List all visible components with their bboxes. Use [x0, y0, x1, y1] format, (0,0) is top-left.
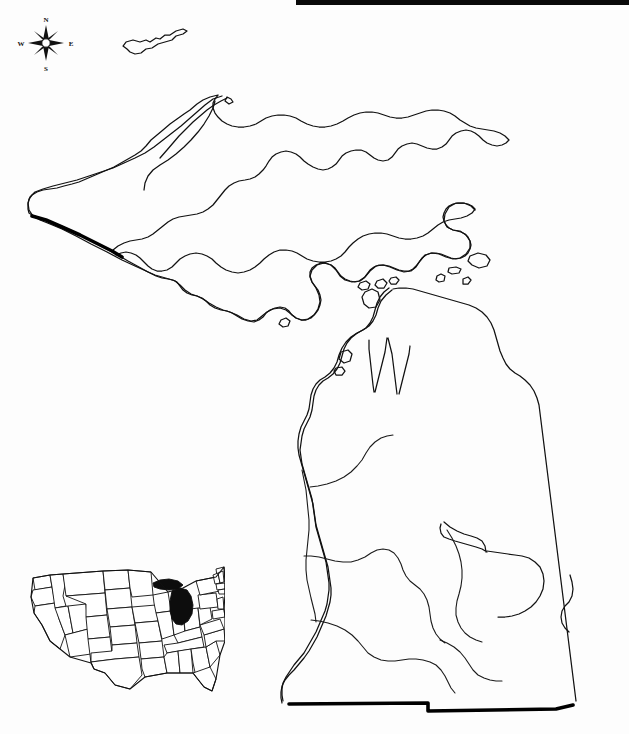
lower-peninsula-outline [281, 290, 392, 703]
grand-island [279, 318, 290, 327]
river-line-central [304, 549, 445, 643]
state-al [178, 649, 193, 673]
les-cheneaux-island [463, 277, 471, 284]
lower-peninsula-west-shore [282, 288, 389, 701]
state-md [212, 609, 225, 619]
river-line-east-branch [440, 640, 502, 681]
mackinac-island [436, 274, 445, 282]
state-ms [164, 651, 180, 673]
keweenaw-tip [144, 101, 215, 190]
state-ar [139, 641, 164, 659]
state-nd [103, 570, 130, 590]
state-pa [198, 593, 218, 609]
state-wi [153, 592, 171, 613]
river-line-north [310, 435, 393, 487]
state-mn [128, 570, 153, 597]
state-nj [217, 597, 224, 609]
upper-peninsula-coast [28, 96, 475, 321]
state-sd [105, 588, 132, 609]
the-thumb-shape [487, 551, 544, 617]
lower-peninsula-east-coast [393, 288, 576, 701]
compass-label-south: S [44, 65, 48, 73]
compass-label-east: E [69, 40, 74, 48]
state-mt [63, 571, 105, 596]
detroit-river-notch [561, 575, 573, 632]
state-ks [110, 625, 137, 645]
southern-state-line [289, 703, 573, 711]
compass-label-north: N [43, 16, 48, 24]
isle-royale-shape [123, 29, 187, 54]
bois-blanc-island [448, 267, 461, 274]
state-ia [132, 605, 158, 623]
beaver-island [362, 289, 380, 308]
river-line-south [311, 620, 455, 693]
compass-rose: N S W E [16, 12, 76, 74]
compass-label-west: W [18, 40, 25, 48]
state-ct [218, 589, 225, 594]
upper-peninsula-outline [28, 95, 509, 322]
state-mo [135, 621, 162, 643]
saginaw-bay [440, 522, 487, 552]
grand-traverse-bay [369, 338, 410, 394]
high-island [375, 279, 387, 288]
north-manitou-island [339, 350, 352, 363]
compass-hub [42, 39, 50, 47]
map-page: N S W E [0, 0, 629, 734]
river-line-west [302, 470, 316, 622]
state-ne [107, 607, 135, 627]
state-tx [91, 657, 142, 689]
state-co [86, 615, 110, 639]
hog-island [389, 277, 399, 284]
us-locator-inset [20, 563, 225, 698]
garden-island [358, 281, 370, 290]
drummond-island [468, 253, 490, 268]
